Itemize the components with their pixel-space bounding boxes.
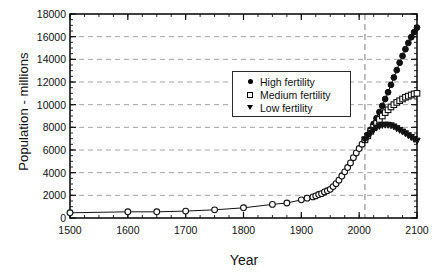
x-tick-label: 1800 <box>221 224 267 236</box>
data-point <box>405 40 411 46</box>
marker-glyph <box>247 92 253 98</box>
legend-label: High fertility <box>260 76 315 88</box>
chart-legend: High fertilityMedium fertilityLow fertil… <box>232 71 351 117</box>
x-tick-label: 1600 <box>105 224 151 236</box>
legend-label: Low fertility <box>260 102 313 114</box>
legend-item-medium: Medium fertility <box>233 88 350 101</box>
series-line <box>70 140 365 213</box>
data-point <box>284 200 290 206</box>
data-point <box>67 210 73 216</box>
data-point <box>400 53 406 59</box>
data-point <box>385 89 391 95</box>
data-point <box>394 67 400 73</box>
marker-glyph <box>247 105 253 110</box>
marker-glyph <box>248 79 253 84</box>
data-point <box>403 46 409 52</box>
data-point <box>391 75 397 81</box>
data-point <box>304 195 310 201</box>
x-axis-title: Year <box>70 252 418 268</box>
series-historical <box>67 137 368 216</box>
x-axis-tick-labels: 1500160017001800190020002100 <box>0 224 436 240</box>
data-point <box>183 208 189 214</box>
data-point <box>212 207 218 213</box>
data-point <box>414 91 420 97</box>
data-point <box>154 209 160 215</box>
legend-label: Medium fertility <box>260 89 331 101</box>
x-tick-label: 2000 <box>336 224 382 236</box>
data-point <box>241 205 247 211</box>
filled-triangle-icon <box>240 105 260 110</box>
data-point <box>270 202 276 208</box>
data-point <box>382 96 388 102</box>
data-point <box>125 209 131 215</box>
x-tick-label: 1900 <box>278 224 324 236</box>
data-point <box>414 25 420 31</box>
x-tick-label: 1500 <box>47 224 93 236</box>
open-square-icon <box>240 92 260 98</box>
data-point <box>379 103 385 109</box>
filled-circle-icon <box>240 79 260 84</box>
legend-item-high: High fertility <box>233 75 350 88</box>
legend-item-low: Low fertility <box>233 101 350 114</box>
data-point <box>388 82 394 88</box>
data-point <box>397 60 403 66</box>
x-tick-label: 2100 <box>394 224 436 236</box>
x-tick-label: 1700 <box>163 224 209 236</box>
data-point <box>298 197 304 203</box>
population-projection-chart: Population - millions 020004000600080001… <box>0 0 436 274</box>
